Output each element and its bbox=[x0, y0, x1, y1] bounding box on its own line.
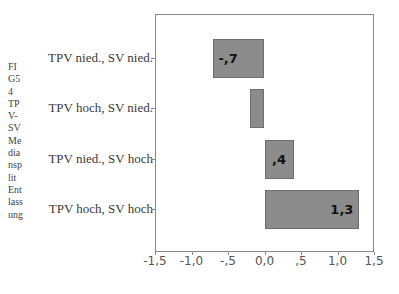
y-axis-title: FIG54TPV-SVMediansplitEntlassung bbox=[8, 61, 38, 221]
category-label: TPV hoch, SV nied. bbox=[48, 100, 153, 116]
y-tick-mark bbox=[151, 159, 155, 160]
bar-value-label: ,4 bbox=[272, 152, 286, 167]
y-axis-title-line: lit bbox=[8, 172, 38, 184]
y-tick-mark bbox=[151, 108, 155, 109]
category-label: TPV hoch, SV hoch bbox=[49, 201, 153, 217]
category-label: TPV nied., SV hoch bbox=[48, 151, 153, 167]
bar: 1,3 bbox=[265, 190, 360, 229]
x-tick-label: ,5 bbox=[295, 254, 306, 268]
y-axis-title-line: lass bbox=[8, 196, 38, 208]
y-axis-title-line: 4 bbox=[8, 86, 38, 98]
y-tick-mark bbox=[151, 58, 155, 59]
bar bbox=[250, 89, 265, 128]
y-axis-title-line: Me bbox=[8, 135, 38, 147]
y-axis-title-line: FI bbox=[8, 61, 38, 73]
y-axis-title-line: SV bbox=[8, 122, 38, 134]
y-axis-title-line: nsp bbox=[8, 159, 38, 171]
bar-value-label: 1,3 bbox=[330, 202, 353, 217]
x-tick-label: -,5 bbox=[220, 254, 236, 268]
bar: ,4 bbox=[265, 140, 294, 179]
x-tick-label: -1,5 bbox=[143, 254, 166, 268]
x-tick-label: 0,0 bbox=[255, 254, 274, 268]
bar: -,7 bbox=[213, 39, 264, 78]
y-axis-title-line: dia bbox=[8, 147, 38, 159]
y-axis-title-line: TP bbox=[8, 98, 38, 110]
y-axis-title-line: V- bbox=[8, 110, 38, 122]
y-axis-title-line: G5 bbox=[8, 73, 38, 85]
y-axis-title-line: Ent bbox=[8, 184, 38, 196]
y-axis-title-line: ung bbox=[8, 209, 38, 221]
x-tick-label: 1,0 bbox=[328, 254, 347, 268]
bar-value-label: -,7 bbox=[218, 51, 237, 66]
x-tick-label: 1,5 bbox=[364, 254, 383, 268]
y-tick-mark bbox=[151, 209, 155, 210]
category-label: TPV nied., SV nied. bbox=[48, 50, 153, 66]
x-tick-label: -1,0 bbox=[180, 254, 203, 268]
